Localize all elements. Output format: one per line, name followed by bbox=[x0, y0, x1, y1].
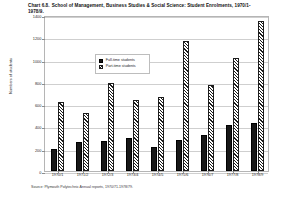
y-axis-tick-label: 200 bbox=[35, 149, 42, 153]
bar-full-time bbox=[101, 141, 107, 171]
x-axis-tick-label: 1970/1 bbox=[52, 174, 64, 178]
y-axis-tick-label: 1200 bbox=[33, 37, 42, 41]
y-axis-tick-mark bbox=[42, 173, 45, 174]
x-axis-tick-label: 1975/6 bbox=[177, 174, 189, 178]
bar-part-time bbox=[133, 100, 139, 171]
bar-group bbox=[195, 17, 220, 171]
y-axis-tick-label: 600 bbox=[35, 104, 42, 108]
legend-label-part-time: Part-time students bbox=[106, 65, 136, 69]
legend-swatch-full-time-icon bbox=[99, 59, 103, 63]
x-axis-tick-label: 1977/8 bbox=[227, 174, 239, 178]
legend-label-full-time: Full-time students bbox=[106, 59, 135, 63]
x-axis-tick-label: 1972/3 bbox=[102, 174, 114, 178]
bar-part-time bbox=[183, 41, 189, 171]
y-axis-tick-label: 800 bbox=[35, 82, 42, 86]
bar-full-time bbox=[51, 149, 57, 171]
bar-full-time bbox=[76, 142, 82, 171]
y-axis-tick-label: 1400 bbox=[33, 15, 42, 19]
chart-figure: Chart 6.8.School of Management, Business… bbox=[0, 0, 295, 203]
x-axis-tick-label: 1973/4 bbox=[127, 174, 139, 178]
chart-number: Chart 6.8. bbox=[28, 3, 50, 8]
plot-area: 0200400600800100012001400 1970/11971/219… bbox=[44, 16, 269, 172]
chart-source-note: Source: Plymouth Polytechnic Annual repo… bbox=[31, 186, 133, 190]
bar-group bbox=[220, 17, 245, 171]
bar-part-time bbox=[83, 113, 89, 171]
bar-full-time bbox=[226, 125, 232, 171]
x-axis-tick-label: 1971/2 bbox=[77, 174, 89, 178]
y-axis-tick-label: 400 bbox=[35, 126, 42, 130]
bar-group bbox=[170, 17, 195, 171]
x-axis-tick-label: 1978/9 bbox=[252, 174, 264, 178]
bar-part-time bbox=[208, 85, 214, 171]
legend-item-part-time: Part-time students bbox=[99, 64, 146, 70]
x-axis-tick-label: 1976/7 bbox=[202, 174, 214, 178]
bar-part-time bbox=[108, 83, 114, 171]
bar-full-time bbox=[251, 123, 257, 171]
y-axis-title: Numbers of students bbox=[9, 58, 13, 94]
bar-full-time bbox=[126, 138, 132, 171]
bar-group bbox=[245, 17, 270, 171]
bar-full-time bbox=[176, 140, 182, 171]
bar-part-time bbox=[258, 21, 264, 171]
bar-part-time bbox=[158, 97, 164, 171]
bar-group bbox=[145, 17, 170, 171]
legend-swatch-part-time-icon bbox=[99, 65, 103, 69]
bar-full-time bbox=[151, 147, 157, 171]
chart-title: Chart 6.8.School of Management, Business… bbox=[28, 3, 266, 16]
bar-group bbox=[120, 17, 145, 171]
x-axis-tick-label: 1974/5 bbox=[152, 174, 164, 178]
chart-title-text: School of Management, Business Studies &… bbox=[28, 3, 251, 14]
chart-legend: Full-time students Part-time students bbox=[95, 54, 150, 74]
bar-part-time bbox=[58, 102, 64, 171]
bar-series-layer bbox=[45, 17, 268, 171]
bar-group bbox=[70, 17, 95, 171]
bar-full-time bbox=[201, 135, 207, 171]
bar-part-time bbox=[233, 58, 239, 171]
y-axis-tick-label: 1000 bbox=[33, 60, 42, 64]
bar-group bbox=[45, 17, 70, 171]
y-axis-tick-label: 0 bbox=[39, 171, 41, 175]
bar-group bbox=[95, 17, 120, 171]
